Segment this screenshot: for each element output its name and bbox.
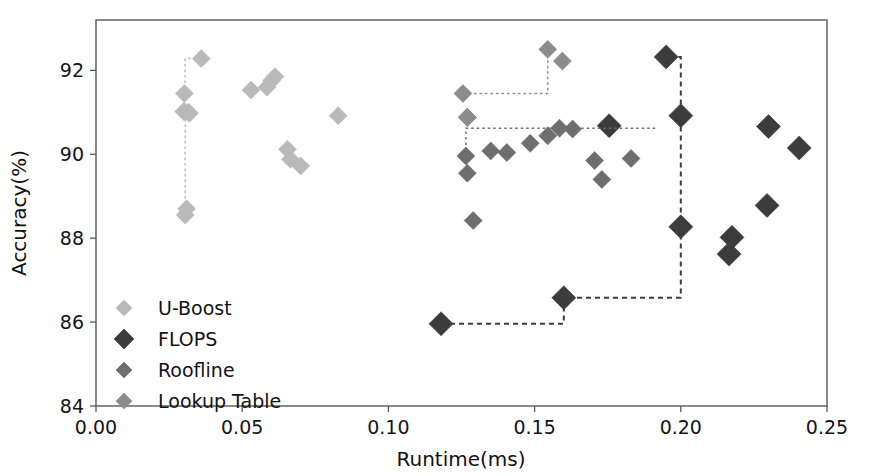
- x-tick-label: 0.25: [806, 416, 848, 438]
- legend-label: U-Boost: [158, 297, 232, 319]
- y-axis-title: Accuracy(%): [7, 150, 31, 276]
- chart-figure: 0.000.050.100.150.200.25 8486889092 U-Bo…: [0, 0, 881, 476]
- x-tick-label: 0.05: [221, 416, 263, 438]
- y-tick-label: 84: [60, 395, 84, 417]
- y-tick-label: 88: [60, 227, 84, 249]
- legend-label: FLOPS: [158, 328, 217, 350]
- scatter-plot: 0.000.050.100.150.200.25 8486889092 U-Bo…: [0, 0, 881, 476]
- x-axis-title: Runtime(ms): [396, 447, 525, 471]
- x-tick-label: 0.10: [367, 416, 409, 438]
- y-tick-label: 86: [60, 311, 84, 333]
- legend-label: Roofline: [158, 359, 235, 381]
- y-tick-label: 90: [60, 143, 84, 165]
- x-tick-label: 0.00: [75, 416, 117, 438]
- legend-label: Lookup Table: [158, 390, 281, 412]
- figure-background: [0, 0, 881, 476]
- x-tick-label: 0.15: [513, 416, 555, 438]
- y-tick-label: 92: [60, 59, 84, 81]
- x-tick-label: 0.20: [660, 416, 702, 438]
